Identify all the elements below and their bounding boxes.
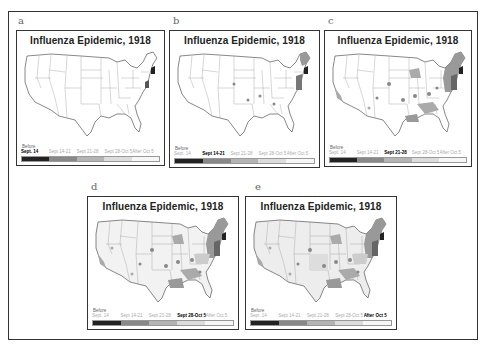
legend-label: Sept 14-21 (120, 313, 148, 318)
legend: Before Sept. 14 Sept 14-21 Sept 21-28 Se… (174, 146, 315, 164)
panel-b: Influenza Epidemic, 1918 Before Sept. 14… (169, 30, 320, 168)
map-container (250, 214, 392, 314)
panel-label-a: a (18, 15, 24, 26)
map-container (329, 48, 471, 148)
legend-label: Sept. 14 (250, 313, 278, 318)
panel-e: Influenza Epidemic, 1918 Before Sept. 14… (245, 196, 397, 330)
legend-label: Sept 21-28 (149, 313, 177, 318)
legend-label: Sept 28-Oct 5 (104, 149, 132, 154)
legend-color-bar (174, 158, 315, 164)
legend-label: Sept 14-21 (357, 150, 385, 155)
legend: Before Sept. 14 Sept 14-21 Sept 21-28 Se… (329, 145, 467, 163)
panel-label-c: c (328, 15, 334, 26)
map-container (92, 214, 234, 314)
legend-label: Sept 21-28 (384, 150, 412, 155)
legend-label: Sept 14-21 (202, 151, 230, 156)
map-container (174, 48, 316, 148)
panel-title: Influenza Epidemic, 1918 (17, 35, 164, 46)
panel-label-d: d (91, 181, 97, 192)
legend-label: Sept. 14 (329, 150, 357, 155)
legend-label: Sept. 14 (174, 151, 202, 156)
legend-color-bar (329, 157, 467, 163)
us-map (21, 48, 163, 144)
panel-title: Influenza Epidemic, 1918 (246, 201, 396, 212)
legend-label: Sept 21-28 (77, 149, 105, 154)
legend-label: Sept 14-21 (49, 149, 77, 154)
legend-label: Sept 28-Oct 5 (177, 313, 205, 318)
us-map (92, 214, 234, 310)
panel-title: Influenza Epidemic, 1918 (88, 201, 238, 212)
legend-label: Sept 21-28 (307, 313, 335, 318)
map-container (21, 48, 163, 148)
legend: Before Sept. 14 Sept 14-21 Sept 21-28 Se… (92, 308, 234, 326)
panel-a: Influenza Epidemic, 1918 Before Sept. 14… (16, 30, 165, 166)
panel-title: Influenza Epidemic, 1918 (325, 35, 471, 46)
legend-color-bar (21, 156, 160, 162)
panel-label-b: b (173, 15, 179, 26)
panel-label-e: e (255, 181, 261, 192)
legend-label: After Oct 5 (439, 150, 467, 155)
panel-d: Influenza Epidemic, 1918 Before Sept. 14… (87, 196, 239, 330)
us-map (250, 214, 392, 310)
legend-label: After Oct 5 (287, 151, 315, 156)
legend-label: After Oct 5 (132, 149, 160, 154)
legend-label: Sept 14-21 (278, 313, 306, 318)
legend-label: Sept. 14 (92, 313, 120, 318)
legend-label: Sept 28-Oct 5 (335, 313, 363, 318)
panel-c: Influenza Epidemic, 1918 Before Sept. 14… (324, 30, 472, 167)
legend-label: Sept 28-Oct 5 (259, 151, 287, 156)
legend-color-bar (92, 320, 234, 326)
legend-label: After Oct 5 (364, 313, 392, 318)
legend-label: After Oct 5 (206, 313, 234, 318)
legend-color-bar (250, 320, 392, 326)
legend: Before Sept. 14 Sept 14-21 Sept 21-28 Se… (250, 308, 392, 326)
us-map (174, 48, 316, 144)
legend: Before Sept. 14 Sept 14-21 Sept 21-28 Se… (21, 144, 160, 162)
legend-label: Sept 28-Oct 5 (412, 150, 440, 155)
legend-label: Sept. 14 (21, 149, 49, 154)
us-map (329, 48, 471, 144)
panel-title: Influenza Epidemic, 1918 (170, 35, 319, 46)
legend-label: Sept 21-28 (230, 151, 258, 156)
